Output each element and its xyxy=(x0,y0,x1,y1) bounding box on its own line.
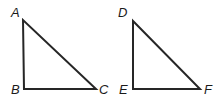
vertex-label-f: F xyxy=(204,83,212,96)
vertex-label-b: B xyxy=(11,83,20,96)
triangle-def-shape xyxy=(133,21,200,89)
vertex-label-a: A xyxy=(11,6,20,19)
triangle-abc-shape xyxy=(23,20,96,89)
triangles-canvas xyxy=(0,0,221,108)
geometry-figure: A B C D E F xyxy=(0,0,221,108)
vertex-label-d: D xyxy=(118,6,127,19)
vertex-label-e: E xyxy=(119,83,128,96)
vertex-label-c: C xyxy=(99,83,108,96)
